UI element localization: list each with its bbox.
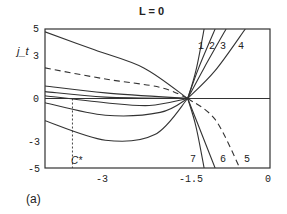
y-tick-neg3: -3 <box>28 138 40 148</box>
y-tick-neg5: -5 <box>28 165 40 175</box>
curve-label-6: 6 <box>220 155 226 165</box>
y-axis-label: j_t <box>17 46 29 57</box>
curve-1 <box>188 29 204 99</box>
plot-area <box>0 0 287 214</box>
marker-label-c-star: C* <box>71 156 82 166</box>
curve-2 <box>188 29 215 99</box>
curve-label-5: 5 <box>244 155 250 165</box>
curve-below-1 <box>45 99 188 116</box>
curve-near-zero-1 <box>45 86 188 99</box>
curve-below-2 <box>45 99 188 142</box>
chart-title: L = 0 <box>139 6 164 17</box>
curve-label-3: 3 <box>220 42 226 52</box>
x-tick-0: 0 <box>265 175 271 185</box>
y-tick-3: 3 <box>33 52 39 62</box>
panel-label: (a) <box>26 193 41 205</box>
x-tick-neg3: -3 <box>96 175 108 185</box>
curve-label-7: 7 <box>190 155 196 165</box>
curve-label-4: 4 <box>238 42 244 52</box>
x-tick-neg1_5: -1.5 <box>179 175 203 185</box>
y-tick-5: 5 <box>33 25 39 35</box>
curve-label-2: 2 <box>209 42 215 52</box>
curve-4 <box>188 29 246 99</box>
curve-label-1: 1 <box>198 42 204 52</box>
curves-group <box>45 29 270 168</box>
y-tick-0: 0 <box>33 95 39 105</box>
chart-figure: L = 0 j_t 5 3 0 -3 -5 -3 -1.5 0 C* 1 2 3… <box>0 0 287 214</box>
